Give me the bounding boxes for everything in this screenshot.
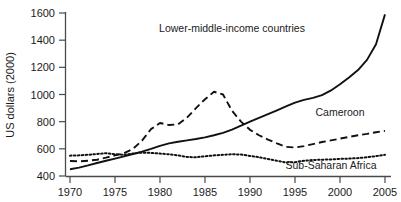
series-annotations: Lower-middle-income countriesCameroonSub…: [159, 22, 377, 171]
x-tick-label: 2005: [373, 186, 397, 198]
y-axis-title: US dollars (2000): [4, 52, 16, 138]
x-tick-label: 2000: [328, 186, 352, 198]
x-tick-label: 1970: [58, 186, 82, 198]
y-tick-label: 600: [37, 143, 55, 155]
y-axis-ticks: 4006008001000120014001600: [31, 7, 66, 182]
chart-container: US dollars (2000) 4006008001000120014001…: [0, 0, 401, 202]
series-line-1: [70, 14, 385, 169]
y-tick-label: 1400: [31, 34, 55, 46]
y-tick-label: 400: [37, 170, 55, 182]
y-axis-title-group: US dollars (2000): [4, 52, 16, 138]
x-axis-ticks: 19701975198019851990199520002005: [58, 177, 397, 199]
y-tick-label: 1000: [31, 89, 55, 101]
x-tick-label: 1995: [283, 186, 307, 198]
x-tick-label: 1975: [103, 186, 127, 198]
y-tick-label: 1600: [31, 7, 55, 19]
x-tick-label: 1990: [238, 186, 262, 198]
line-chart: US dollars (2000) 4006008001000120014001…: [0, 0, 401, 202]
y-tick-label: 1200: [31, 61, 55, 73]
x-tick-label: 1980: [148, 186, 172, 198]
x-tick-label: 1985: [193, 186, 217, 198]
series-group: [70, 14, 385, 169]
y-tick-label: 800: [37, 116, 55, 128]
series-label-1: Lower-middle-income countries: [159, 22, 305, 34]
series-line-2: [70, 92, 385, 162]
series-label-3: Sub-Saharan Africa: [285, 159, 376, 171]
series-label-2: Cameroon: [315, 106, 364, 118]
